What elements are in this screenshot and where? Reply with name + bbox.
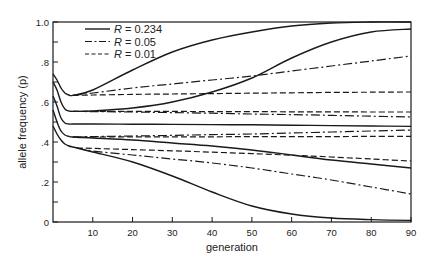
series-line-dashed bbox=[77, 148, 411, 161]
x-tick-label: 90 bbox=[406, 227, 417, 238]
x-tick-label: 70 bbox=[326, 227, 337, 238]
x-tick-label: 60 bbox=[286, 227, 297, 238]
x-tick-label: 20 bbox=[127, 227, 138, 238]
x-tick-label: 50 bbox=[247, 227, 258, 238]
y-tick-label: .4 bbox=[41, 137, 49, 148]
series-line-dashed bbox=[73, 92, 411, 95]
legend: R = 0.234R = 0.05R = 0.01 bbox=[85, 23, 162, 60]
series-line-solid bbox=[53, 29, 411, 111]
x-tick-label: 80 bbox=[366, 227, 377, 238]
plot-frame bbox=[53, 22, 411, 222]
allele-frequency-chart: 1020304050607080900.2.4.6.81.0 R = 0.234… bbox=[0, 0, 438, 269]
legend-label: R = 0.01 bbox=[114, 48, 156, 60]
x-tick-label: 10 bbox=[87, 227, 98, 238]
series-line-solid bbox=[53, 22, 411, 96]
legend-label: R = 0.234 bbox=[114, 23, 162, 35]
series-line-solid bbox=[53, 126, 411, 220]
legend-label: R = 0.05 bbox=[114, 36, 156, 48]
y-tick-label: 1.0 bbox=[36, 17, 49, 28]
y-tick-label: .6 bbox=[41, 97, 49, 108]
x-tick-label: 30 bbox=[167, 227, 178, 238]
axes: 1020304050607080900.2.4.6.81.0 bbox=[36, 17, 417, 239]
series-line-dashdot bbox=[73, 111, 411, 117]
series-line-dashdot bbox=[77, 148, 411, 194]
series-line-dashed bbox=[73, 136, 411, 137]
series-line-solid bbox=[53, 110, 411, 168]
y-tick-label: .8 bbox=[41, 57, 49, 68]
y-tick-label: .2 bbox=[41, 177, 49, 188]
series-line-dashdot bbox=[73, 130, 411, 137]
series-line-solid bbox=[53, 96, 411, 126]
series-line-dashed bbox=[73, 111, 411, 112]
x-axis-title: generation bbox=[206, 241, 258, 253]
series-lines bbox=[53, 22, 411, 220]
series-line-dashdot bbox=[73, 56, 411, 95]
x-tick-label: 40 bbox=[207, 227, 218, 238]
y-axis-title: allele frequency (p) bbox=[16, 75, 28, 169]
y-tick-label: 0 bbox=[44, 217, 49, 228]
